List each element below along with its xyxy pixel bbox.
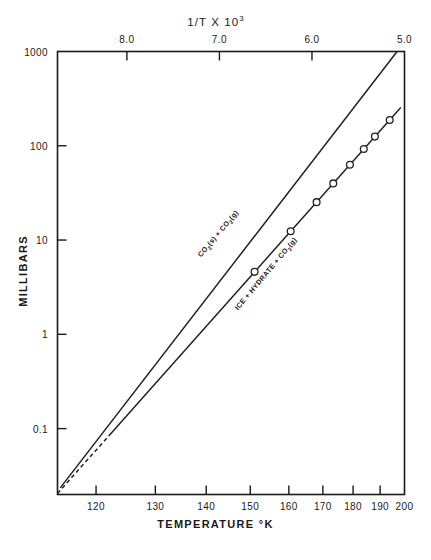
data-point-marker: [251, 268, 258, 275]
figure-container: 1/T X 103 TEMPERATURE °K MILLIBARS 8.07.…: [0, 0, 431, 560]
plot-area: [0, 0, 431, 560]
data-point-marker: [347, 161, 354, 168]
axes-frame: [58, 52, 405, 495]
data-point-marker: [313, 199, 320, 206]
data-point-marker: [386, 117, 393, 124]
series-line-co2-solid-gas: [60, 52, 397, 488]
data-series-layer: [58, 52, 401, 494]
data-point-marker: [360, 146, 367, 153]
data-point-marker: [371, 133, 378, 140]
data-point-marker: [330, 180, 337, 187]
data-point-marker: [287, 228, 294, 235]
series-line-ice-hydrate-dashed: [58, 436, 109, 494]
